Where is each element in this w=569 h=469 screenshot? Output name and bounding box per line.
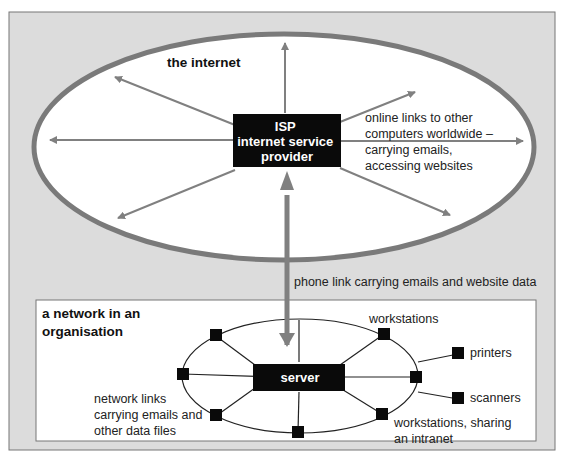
scanner-node xyxy=(452,392,464,404)
workstation-node xyxy=(210,329,222,341)
workstation-node xyxy=(210,409,222,421)
workstation-node xyxy=(378,328,390,340)
internet-title: the internet xyxy=(167,55,241,70)
workstation-node xyxy=(376,408,388,420)
printer-node xyxy=(452,347,464,359)
printers-label: printers xyxy=(470,346,512,360)
workstations-top-label: workstations xyxy=(368,312,438,326)
workstation-node xyxy=(292,426,304,438)
workstation-node xyxy=(177,368,189,380)
phone-link-label: phone link carrying emails and website d… xyxy=(294,275,537,289)
workstation-node xyxy=(410,371,422,383)
server-label: server xyxy=(280,370,319,385)
internet-network-diagram: the internet ISP internet service provid… xyxy=(0,0,569,469)
scanners-label: scanners xyxy=(470,391,521,405)
